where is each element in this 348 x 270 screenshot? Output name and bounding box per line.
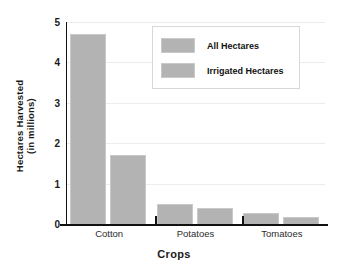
x-tickmark-2 bbox=[242, 216, 244, 224]
y-axis-tick-4: 4 bbox=[44, 57, 60, 68]
bar-tomatoes-all-hectares bbox=[243, 213, 279, 224]
y-axis-tick-labels: 012345 bbox=[44, 0, 60, 270]
chart-legend: All Hectares Irrigated Hectares bbox=[152, 26, 300, 89]
x-axis-line bbox=[60, 224, 328, 226]
legend-item-irrigated-hectares: Irrigated Hectares bbox=[161, 59, 291, 82]
y-axis-tick-3: 3 bbox=[44, 97, 60, 108]
bar-potatoes-all-hectares bbox=[157, 204, 193, 224]
y-axis-tick-5: 5 bbox=[44, 17, 60, 28]
x-tickmark-1 bbox=[155, 216, 157, 224]
y-axis-title-line-2: (in millions) bbox=[25, 80, 36, 172]
y-axis-title-line-1: Hectares Harvested bbox=[14, 80, 25, 172]
x-category-cotton: Cotton bbox=[95, 228, 123, 239]
y-axis-tick-2: 2 bbox=[44, 138, 60, 149]
legend-swatch-irrigated-hectares bbox=[161, 63, 195, 78]
legend-label-irrigated-hectares: Irrigated Hectares bbox=[207, 66, 284, 76]
x-category-tomatoes: Tomatoes bbox=[261, 228, 302, 239]
bar-tomatoes-irrigated-hectares bbox=[283, 217, 319, 224]
y-axis-title: Hectares Harvested (in millions) bbox=[14, 28, 36, 224]
bar-potatoes-irrigated-hectares bbox=[197, 208, 233, 224]
y-axis-tick-1: 1 bbox=[44, 178, 60, 189]
y-axis-tick-0: 0 bbox=[44, 219, 60, 230]
x-axis-title: Crops bbox=[0, 248, 348, 260]
legend-item-all-hectares: All Hectares bbox=[161, 34, 291, 57]
legend-label-all-hectares: All Hectares bbox=[207, 41, 259, 51]
legend-swatch-all-hectares bbox=[161, 38, 195, 53]
bar-cotton-irrigated-hectares bbox=[110, 155, 146, 224]
x-category-potatoes: Potatoes bbox=[177, 228, 215, 239]
bar-chart-figure: Hectares Harvested (in millions) 012345 … bbox=[0, 0, 348, 270]
bar-cotton-all-hectares bbox=[70, 34, 106, 224]
